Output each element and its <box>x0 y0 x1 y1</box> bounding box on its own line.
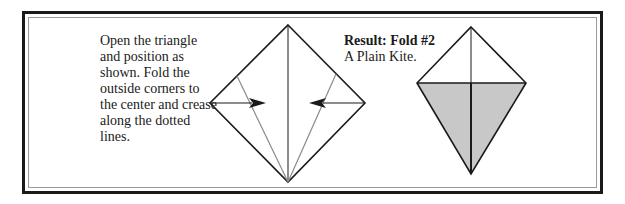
arrow-left-icon <box>309 98 365 108</box>
fold-diagrams <box>0 0 625 204</box>
arrow-right-icon <box>210 98 266 108</box>
crease-line-right <box>288 74 336 182</box>
step-diagram <box>210 25 365 182</box>
crease-line-left <box>237 76 288 182</box>
kite-result-diagram <box>417 27 526 174</box>
